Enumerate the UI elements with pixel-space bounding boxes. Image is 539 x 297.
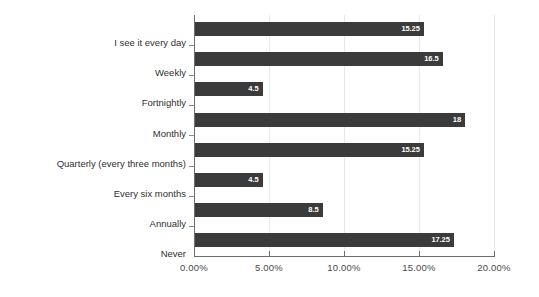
category-label: Monthly (0, 129, 186, 139)
bar[interactable]: 4.5 (195, 82, 263, 96)
category-label: Weekly (0, 68, 186, 78)
y-axis-tick (189, 196, 194, 197)
category-label: Never (0, 249, 186, 259)
x-axis-line (194, 256, 495, 257)
y-axis-tick (189, 135, 194, 136)
category-label: I see it every day (0, 38, 186, 48)
x-tick-label: 20.00% (459, 262, 529, 273)
x-axis-tick (494, 251, 495, 256)
y-axis-tick (189, 166, 194, 167)
bar-value-label: 15.25 (401, 25, 423, 33)
bar[interactable]: 15.25 (195, 22, 424, 36)
x-axis-tick (269, 251, 270, 256)
y-axis-tick (189, 75, 194, 76)
bar-value-label: 4.5 (248, 85, 262, 93)
bar[interactable]: 15.25 (195, 143, 424, 157)
category-label: Annually (0, 219, 186, 229)
bar-value-label: 8.5 (308, 206, 322, 214)
bar-value-label: 18 (453, 116, 465, 124)
bar[interactable]: 8.5 (195, 203, 323, 217)
x-tick-label: 10.00% (309, 262, 379, 273)
gridline (494, 15, 495, 256)
x-tick-label: 5.00% (234, 262, 304, 273)
y-axis-tick (189, 105, 194, 106)
y-axis-tick (189, 45, 194, 46)
bar-value-label: 4.5 (248, 176, 262, 184)
bar-chart: 0.00% 5.00% 10.00% 15.00% 20.00% I see i… (0, 0, 539, 297)
bar[interactable]: 17.25 (195, 233, 454, 247)
category-label: Fortnightly (0, 98, 186, 108)
category-label: Quarterly (every three months) (0, 159, 186, 169)
bar-value-label: 15.25 (401, 146, 423, 154)
bar-value-label: 17.25 (431, 236, 453, 244)
bar-value-label: 16.5 (424, 55, 442, 63)
category-axis-labels: I see it every day Weekly Fortnightly Mo… (0, 15, 186, 256)
bar[interactable]: 18 (195, 113, 465, 127)
bar[interactable]: 16.5 (195, 52, 443, 66)
category-label: Every six months (0, 189, 186, 199)
y-axis-tick (189, 226, 194, 227)
x-tick-label: 15.00% (384, 262, 454, 273)
x-axis-tick (194, 251, 195, 256)
x-tick-label: 0.00% (159, 262, 229, 273)
x-axis-tick (419, 251, 420, 256)
x-axis-tick (344, 251, 345, 256)
bar[interactable]: 4.5 (195, 173, 263, 187)
